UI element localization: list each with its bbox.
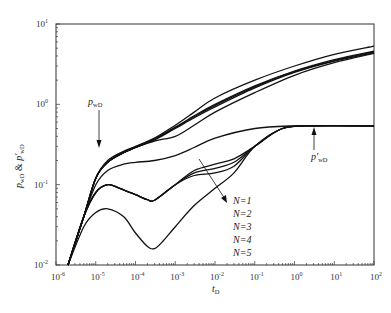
n-legend: N=1 N=2 N=3 N=4 N=5 xyxy=(232,195,251,258)
n-label-4: N=4 xyxy=(232,234,251,245)
x-tick-label: 10-2 xyxy=(210,271,224,282)
y-tick-label: 101 xyxy=(36,18,48,29)
x-tick-label: 10-3 xyxy=(170,271,184,282)
pressure-curve xyxy=(68,53,374,265)
pressure-curve xyxy=(68,53,374,265)
pressure-curve xyxy=(68,46,374,265)
y-tick-label: 10-1 xyxy=(34,179,48,190)
y-tick-label: 10-2 xyxy=(34,259,48,270)
tick-labels: 10-610-510-410-310-210-110010110210-210-… xyxy=(34,18,382,282)
annotation-pwd: pwD xyxy=(87,96,103,108)
x-tick-label: 10-4 xyxy=(131,271,145,282)
derivative-curve xyxy=(68,126,374,265)
y-tick-label: 100 xyxy=(36,98,48,109)
x-tick-label: 100 xyxy=(291,271,303,282)
x-tick-label: 10-5 xyxy=(91,271,105,282)
axis-ticks xyxy=(56,24,374,265)
derivative-curve xyxy=(68,126,374,265)
arrowhead-pwd xyxy=(97,140,102,148)
n-label-5: N=5 xyxy=(232,247,251,258)
arrowhead-increasing-n xyxy=(221,195,227,203)
derivative-curve xyxy=(68,126,374,265)
plot-frame xyxy=(56,24,374,265)
x-axis-label: tD xyxy=(212,283,220,295)
x-tick-label: 101 xyxy=(330,271,342,282)
arrowhead-dpwd xyxy=(312,127,317,135)
derivative-curve xyxy=(68,126,374,265)
log-log-chart: 10-610-510-410-310-210-110010110210-210-… xyxy=(0,0,391,313)
x-tick-label: 102 xyxy=(370,271,382,282)
n-label-3: N=3 xyxy=(232,221,251,232)
n-label-2: N=2 xyxy=(232,208,251,219)
derivative-curve xyxy=(68,126,374,265)
x-tick-label: 10-6 xyxy=(51,271,65,282)
annotation-dpwd: p'wD xyxy=(310,151,328,163)
n-label-1: N=1 xyxy=(232,195,251,206)
y-axis-label: pwD & p'wD xyxy=(13,144,25,189)
curves xyxy=(68,46,374,265)
x-tick-label: 10-1 xyxy=(250,271,264,282)
